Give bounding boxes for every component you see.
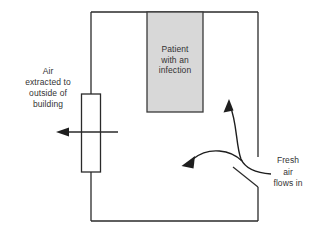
fresh-air-up-arrowhead (224, 99, 234, 113)
fresh-air-left-arrowhead (182, 156, 196, 169)
air-extracted-label: Air extracted to outside of building (8, 66, 88, 110)
isolation-room-diagram: Air extracted to outside of building Pat… (0, 0, 320, 228)
patient-box-label: Patient with an infection (147, 44, 203, 76)
diagram-drawing (0, 0, 320, 228)
fresh-air-left-arrow-icon (182, 151, 243, 169)
fresh-air-label: Fresh air flows in (257, 155, 319, 190)
extract-arrowhead (56, 128, 69, 137)
fresh-air-left-curve (193, 151, 242, 161)
